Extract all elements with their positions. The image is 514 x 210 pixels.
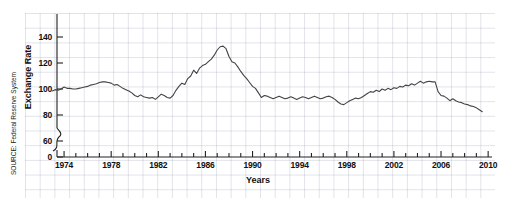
xtick-label: 2010 xyxy=(473,160,503,170)
xtick-label: 1974 xyxy=(49,160,79,170)
axis-ticks xyxy=(57,37,488,157)
xtick-label: 2006 xyxy=(426,160,456,170)
ytick-label: 120 xyxy=(30,58,52,68)
ytick-label: 100 xyxy=(30,84,52,94)
data-series-line xyxy=(52,46,482,112)
x-axis-title: Years xyxy=(246,175,270,185)
ytick-label: 60 xyxy=(30,136,52,146)
source-note: SOURCE: Federal Reserve System xyxy=(10,66,17,181)
xtick-label: 1990 xyxy=(238,160,268,170)
xtick-label: 1978 xyxy=(96,160,126,170)
xtick-label: 1982 xyxy=(143,160,173,170)
y-axis-break-symbol xyxy=(53,128,61,151)
xtick-label: 1998 xyxy=(332,160,362,170)
ytick-label: 80 xyxy=(30,110,52,120)
chart-container: 0 60 80 100 120 140 1974 1978 1982 1986 … xyxy=(0,0,514,210)
xtick-label: 2002 xyxy=(379,160,409,170)
ytick-label: 140 xyxy=(30,32,52,42)
y-axis-title: Exchange Rate xyxy=(23,32,33,122)
xtick-label: 1986 xyxy=(190,160,220,170)
xtick-label: 1994 xyxy=(285,160,315,170)
